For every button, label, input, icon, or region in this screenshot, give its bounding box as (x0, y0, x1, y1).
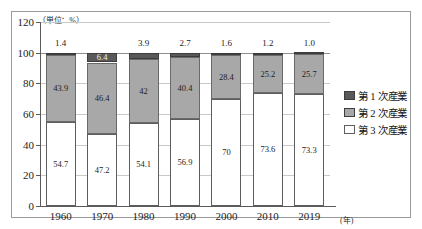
x-tick-label-2019: 2019 (286, 210, 332, 222)
bars-layer: 54.743.91.41.447.246.46.46.454.1423.93.9… (40, 22, 330, 206)
bar-segment-value: 70 (222, 148, 231, 157)
bar-top-value-label: 1.6 (206, 38, 246, 48)
bar-segment-value: 25.2 (260, 70, 275, 79)
bar-segment-value: 47.2 (95, 166, 110, 175)
bar-segment-secondary: 40.4 (170, 57, 200, 119)
white-swatch-icon (344, 125, 355, 134)
bar-segment-primary: 1.6 (211, 53, 241, 55)
bar-segment-secondary: 25.2 (253, 55, 283, 94)
y-tick-label-20: 20 (0, 169, 34, 181)
bar-group: 47.246.46.46.4 (87, 22, 117, 206)
dark-gray-swatch-icon (344, 91, 355, 100)
y-tick-label-80: 80 (0, 77, 34, 89)
bar-segment-tertiary: 73.6 (253, 93, 283, 206)
bar-segment-value: 43.9 (53, 84, 68, 93)
y-tick-label-60: 60 (0, 108, 34, 120)
bar-segment-secondary: 25.7 (294, 54, 324, 93)
x-axis-unit-label: (年) (340, 214, 353, 225)
legend-item[interactable]: 第 2 次産業 (344, 104, 408, 121)
bar-top-value-label: 1.4 (41, 38, 81, 48)
x-tick-label-2000: 2000 (203, 210, 249, 222)
bar-segment-value: 54.1 (136, 160, 151, 169)
bar-segment-tertiary: 56.9 (170, 119, 200, 206)
bar-group: 54.743.91.41.4 (46, 22, 76, 206)
chart-figure: （単位：%） 020406080100120 54.743.91.41.447.… (0, 0, 422, 229)
bar-group: 54.1423.93.9 (129, 22, 159, 206)
bar-group: 7028.41.61.6 (211, 22, 241, 206)
mid-gray-swatch-icon (344, 108, 355, 117)
bar-group: 56.940.42.72.7 (170, 22, 200, 206)
plot-area: 020406080100120 54.743.91.41.447.246.46.… (40, 22, 330, 206)
y-tick-label-40: 40 (0, 139, 34, 151)
legend-item[interactable]: 第 3 次産業 (344, 121, 408, 138)
bar-segment-secondary: 28.4 (211, 55, 241, 99)
bar-segment-value: 40.4 (178, 84, 193, 93)
y-tick-mark-0 (36, 206, 40, 207)
bar-top-value-label: 1.0 (289, 38, 329, 48)
bar-segment-value: 56.9 (178, 158, 193, 167)
bar-segment-value: 54.7 (53, 160, 68, 169)
bar-segment-secondary: 46.4 (87, 63, 117, 134)
x-tick-label-1980: 1980 (121, 210, 167, 222)
bar-segment-tertiary: 73.3 (294, 94, 324, 206)
bar-segment-primary: 1.4 (46, 53, 76, 55)
legend-item-label: 第 3 次産業 (358, 122, 407, 137)
x-tick-label-2010: 2010 (245, 210, 291, 222)
bar-segment-primary: 6.4 (87, 53, 117, 63)
bar-segment-value: 42 (139, 87, 148, 96)
bar-segment-secondary: 42 (129, 59, 159, 123)
legend-item-label: 第 2 次産業 (358, 105, 407, 120)
x-axis-line (40, 206, 336, 207)
bar-segment-primary: 2.7 (170, 53, 200, 57)
legend-item[interactable]: 第 1 次産業 (344, 87, 408, 104)
bar-segment-primary: 3.9 (129, 53, 159, 59)
bar-segment-value: 73.3 (302, 146, 317, 155)
y-tick-label-0: 0 (0, 200, 34, 212)
bar-top-value-label: 3.9 (124, 38, 164, 48)
bar-segment-value: 46.4 (95, 94, 110, 103)
bar-top-value-label: 1.2 (248, 38, 288, 48)
bar-segment-value: 25.7 (302, 70, 317, 79)
x-tick-label-1970: 1970 (79, 210, 125, 222)
chart-legend: 第 1 次産業第 2 次産業第 3 次産業 (344, 87, 408, 138)
y-tick-label-100: 100 (0, 47, 34, 59)
bar-segment-tertiary: 70 (211, 99, 241, 206)
bar-segment-tertiary: 47.2 (87, 134, 117, 206)
bar-segment-tertiary: 54.1 (129, 123, 159, 206)
bar-segment-tertiary: 54.7 (46, 122, 76, 206)
legend-item-label: 第 1 次産業 (358, 88, 407, 103)
bar-segment-primary: 1.2 (253, 53, 283, 55)
bar-top-value-label: 2.7 (165, 38, 205, 48)
bar-segment-value: 28.4 (219, 73, 234, 82)
y-tick-label-120: 120 (0, 16, 34, 28)
x-tick-label-1990: 1990 (162, 210, 208, 222)
bar-group: 73.325.71.01.0 (294, 22, 324, 206)
bar-segment-secondary: 43.9 (46, 55, 76, 122)
bar-segment-value: 73.6 (260, 145, 275, 154)
bar-segment-value: 6.4 (97, 53, 108, 62)
bar-group: 73.625.21.21.2 (253, 22, 283, 206)
bar-segment-primary: 1.0 (294, 52, 324, 54)
x-tick-label-1960: 1960 (38, 210, 84, 222)
